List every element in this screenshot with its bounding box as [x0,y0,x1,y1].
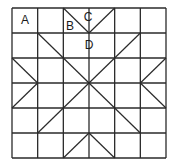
diagonal-line [38,108,64,133]
diagonal-line [115,108,141,133]
diagonal-line [12,58,38,83]
diagonal-line [38,33,64,58]
diagonal-line [63,133,89,158]
label-d: D [85,39,94,51]
label-b: B [66,20,74,32]
diagonal-line [140,83,166,108]
diagonal-line [140,58,166,83]
label-a: A [21,14,29,26]
diagonal-line [89,8,115,33]
diagonal-line [89,133,115,158]
diagonal-line [12,83,38,108]
label-c: C [84,11,93,23]
diagonal-line [115,33,141,58]
